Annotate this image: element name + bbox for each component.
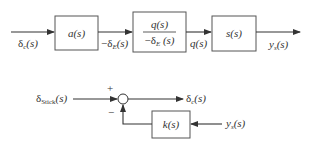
block-a-label: a(s) <box>68 27 85 40</box>
minus-sign: − <box>108 106 114 118</box>
fraction-denominator: −δE (s) <box>144 34 174 48</box>
summing-junction <box>118 94 128 104</box>
block-k-label: k(s) <box>163 118 180 131</box>
fraction-numerator: q(s) <box>151 18 168 31</box>
block-s-label: s(s) <box>226 27 242 40</box>
stick-input-label: δStick(s) <box>36 92 68 106</box>
plus-sign: + <box>107 82 113 94</box>
output-signal-label: ys(s) <box>268 38 289 52</box>
delta-E-signal-label: −δE(s) <box>101 37 129 51</box>
ys-feedback-input-label: ys(s) <box>225 117 246 131</box>
input-signal-label: δc(s) <box>18 37 38 51</box>
block-diagram: δc(s) a(s) −δE(s) q(s) −δE (s) q(s) s(s)… <box>0 0 312 142</box>
feedback-path-arrow <box>123 105 152 124</box>
q-signal-label: q(s) <box>190 37 207 50</box>
delta-c-output-label: δc(s) <box>186 92 206 106</box>
